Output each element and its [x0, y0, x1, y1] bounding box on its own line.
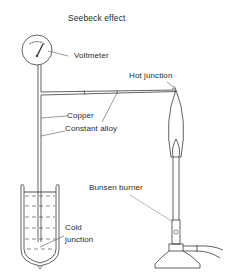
- bunsen-burner-label: Bunsen burner: [89, 183, 143, 192]
- flame-icon: [168, 90, 183, 157]
- constant-alloy-label: Constant alloy: [65, 124, 117, 133]
- diagram-drawing: [0, 0, 233, 279]
- seebeck-diagram: Seebeck effect Voltmeter Hot junction Co…: [0, 0, 233, 279]
- hot-junction-label: Hot junction: [129, 71, 172, 80]
- copper-label: Copper: [67, 111, 94, 120]
- bunsen-burner-icon: [155, 157, 223, 268]
- diagram-title: Seebeck effect: [68, 14, 125, 23]
- voltmeter-icon: [22, 35, 52, 65]
- cold-junction-label-line1: Cold: [65, 223, 82, 232]
- beaker-icon: [21, 185, 59, 269]
- cold-junction-label-line2: junction: [65, 235, 93, 244]
- voltmeter-label: Voltmeter: [74, 51, 109, 60]
- leader-lines: [40, 51, 176, 247]
